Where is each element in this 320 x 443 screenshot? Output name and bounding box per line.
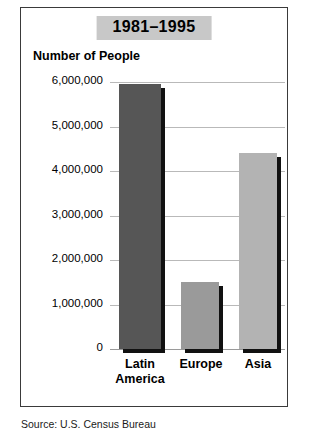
bar — [239, 153, 277, 349]
y-axis-tick-label: 2,000,000 — [21, 252, 103, 264]
gridline — [110, 305, 285, 306]
x-axis-category-label: Europe — [171, 357, 231, 372]
plot-area: 6,000,0005,000,0004,000,0003,000,0002,00… — [21, 8, 287, 406]
bar-column — [181, 282, 219, 349]
bar — [181, 282, 219, 349]
y-axis-tick-label: 6,000,000 — [21, 74, 103, 86]
x-axis-category-label: Latin America — [107, 357, 173, 387]
gridline — [110, 260, 285, 261]
bar-column — [119, 84, 161, 349]
gridline — [110, 82, 285, 83]
chart-frame: 1981–1995 Number of People 6,000,0005,00… — [20, 7, 288, 407]
gridline — [110, 127, 285, 128]
bar-column — [239, 153, 277, 349]
x-axis-category-label: Asia — [229, 357, 287, 372]
y-axis-tick-label: 1,000,000 — [21, 297, 103, 309]
gridline — [110, 216, 285, 217]
bar — [119, 84, 161, 349]
source-note: Source: U.S. Census Bureau — [21, 418, 156, 430]
gridline — [110, 349, 285, 350]
y-axis-tick-label: 0 — [21, 341, 103, 353]
y-axis-tick-label: 5,000,000 — [21, 119, 103, 131]
gridline — [110, 171, 285, 172]
y-axis-tick-label: 3,000,000 — [21, 208, 103, 220]
y-axis-tick-label: 4,000,000 — [21, 163, 103, 175]
